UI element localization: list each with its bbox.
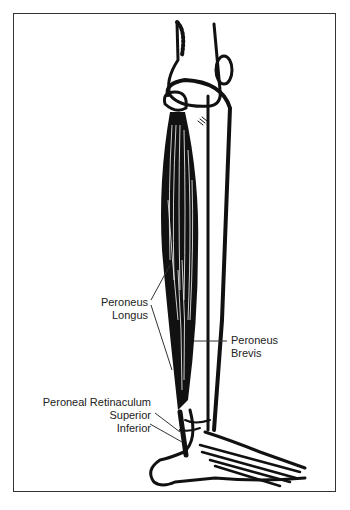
label-peroneus-brevis-line1: Peroneus	[231, 334, 278, 347]
label-peroneal-retinaculum: Peroneal Retinaculum Superior Inferior	[20, 396, 151, 435]
label-peroneus-longus-line2: Longus	[92, 309, 148, 322]
label-retinaculum-inferior: Inferior	[20, 422, 151, 435]
label-peroneus-longus: Peroneus Longus	[92, 296, 148, 322]
label-retinaculum-title: Peroneal Retinaculum	[20, 396, 151, 409]
label-retinaculum-superior: Superior	[20, 409, 151, 422]
femur-bone	[169, 22, 221, 106]
label-peroneus-brevis-line2: Brevis	[231, 347, 278, 360]
foot-bones	[151, 410, 305, 486]
label-peroneus-brevis: Peroneus Brevis	[231, 334, 278, 360]
peroneus-muscle-group	[161, 112, 198, 410]
label-peroneus-longus-line1: Peroneus	[92, 296, 148, 309]
